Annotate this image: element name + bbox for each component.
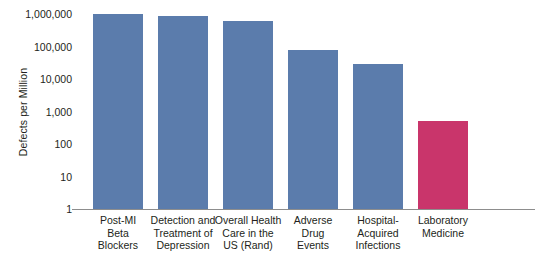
y-tick-label: 10,000	[40, 74, 72, 84]
bar	[93, 14, 143, 209]
bar	[288, 50, 338, 209]
bar-slot	[223, 13, 273, 209]
bar	[353, 64, 403, 210]
plot-area	[80, 14, 535, 210]
x-tick-label: Hospital- Acquired Infections	[341, 214, 415, 252]
y-tick-label: 100	[54, 139, 72, 149]
y-tick-label: 10	[60, 172, 72, 182]
bar-group	[80, 14, 535, 210]
bar	[418, 121, 468, 209]
bar-slot	[353, 13, 403, 209]
x-tick-label: Laboratory Medicine	[406, 214, 480, 239]
y-axis-tick-labels: 1,000,000100,00010,0001,000100101	[0, 0, 80, 262]
bar-slot	[93, 13, 143, 209]
y-tick-label: 1,000,000	[25, 9, 72, 19]
bar	[158, 16, 208, 209]
bar-slot	[158, 13, 208, 209]
y-tick-label: 1,000	[46, 107, 72, 117]
x-tick-label: Overall Health Care in the US (Rand)	[211, 214, 285, 252]
x-tick-label: Adverse Drug Events	[276, 214, 350, 252]
bar-slot	[288, 13, 338, 209]
x-axis-line	[72, 209, 535, 210]
bar-chart: Defects per Million 1,000,000100,00010,0…	[0, 0, 541, 262]
x-axis-tick-labels: Post-MI Beta BlockersDetection and Treat…	[80, 214, 535, 262]
x-tick-label: Post-MI Beta Blockers	[81, 214, 155, 252]
bar-slot	[418, 13, 468, 209]
y-tick-label: 100,000	[34, 42, 72, 52]
bar	[223, 21, 273, 209]
x-tick-label: Detection and Treatment of Depression	[146, 214, 220, 252]
